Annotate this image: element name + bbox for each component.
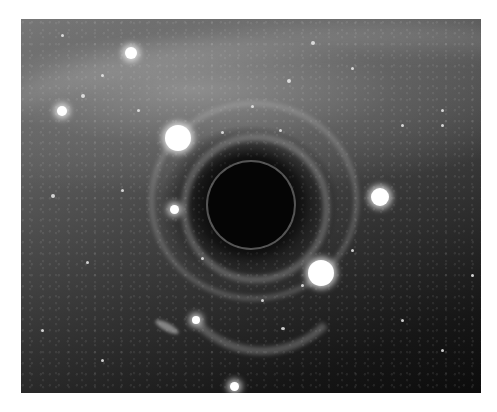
- star: [351, 249, 354, 252]
- bright-star: [308, 260, 334, 286]
- star: [401, 319, 404, 322]
- star: [137, 109, 140, 112]
- bright-star: [125, 47, 137, 59]
- star: [279, 129, 282, 132]
- bright-star: [371, 188, 389, 206]
- star: [61, 34, 64, 37]
- star: [101, 74, 104, 77]
- bright-star: [230, 382, 239, 391]
- star: [101, 359, 104, 362]
- star: [201, 257, 204, 260]
- star: [81, 94, 85, 98]
- star: [281, 327, 285, 330]
- star: [121, 189, 124, 192]
- star: [41, 329, 44, 332]
- bright-star: [165, 125, 191, 151]
- star: [351, 67, 354, 70]
- black-hole-image: [21, 19, 481, 393]
- star: [441, 109, 444, 112]
- star: [441, 124, 444, 127]
- star: [86, 261, 89, 264]
- star: [51, 194, 55, 198]
- bright-star: [57, 106, 67, 116]
- bright-star: [170, 205, 179, 214]
- star: [441, 349, 444, 352]
- star: [311, 41, 315, 45]
- star: [251, 105, 254, 108]
- star: [471, 274, 474, 277]
- star: [221, 131, 224, 134]
- black-hole-shadow: [208, 162, 294, 248]
- bright-star: [192, 316, 200, 324]
- star: [401, 124, 404, 127]
- star: [261, 299, 264, 302]
- star: [301, 284, 304, 287]
- star: [287, 79, 291, 83]
